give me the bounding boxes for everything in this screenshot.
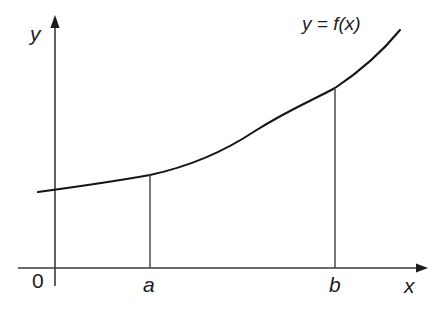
y-axis-label: y [30, 23, 41, 44]
origin-label: 0 [32, 270, 44, 291]
tick-label-b: b [329, 274, 341, 295]
tick-label-a: a [143, 274, 155, 295]
graph-canvas [0, 0, 439, 311]
curve-label: y = f(x) [302, 14, 361, 33]
x-axis-label: x [404, 275, 415, 296]
y-axis-arrowhead [50, 15, 59, 28]
function-graph-figure: y x 0 a b y = f(x) [0, 0, 439, 311]
function-curve [38, 30, 400, 192]
x-axis-arrowhead [416, 263, 428, 272]
